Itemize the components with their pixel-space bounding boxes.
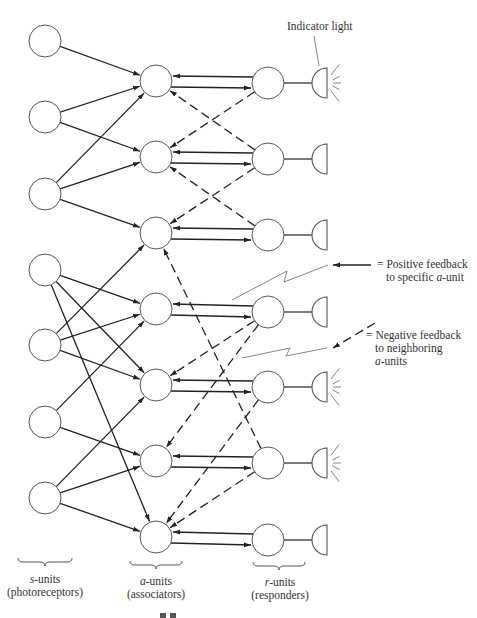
negative-eq: = [366,329,373,341]
signal-a2-to-r2 [171,163,251,164]
s-units-label: s-units (photoreceptors) [0,573,90,599]
a-unit-4 [140,293,172,325]
connection-s3-a1 [56,93,144,182]
signal-a6-to-r6 [171,467,251,468]
indicator-lights [312,64,341,555]
a-unit-1 [140,65,172,97]
feedback-r3-to-a3 [173,228,253,229]
r-unit-4 [252,296,284,328]
units [29,25,284,556]
s-unit-1 [29,25,61,57]
light-ray [331,471,339,482]
neg-feedback-r4-a5 [170,321,254,376]
positive-feedback-pointer-line [232,265,328,300]
positive-feedback-label: = Positive feedback to specific a-unit [377,258,468,284]
r-units-sublabel: (responders) [251,589,308,601]
light-ray [332,86,339,90]
r-unit-6 [252,447,284,479]
r-units-brace [253,562,305,570]
positive-line2-post: -unit [442,271,464,283]
r-unit-5 [252,371,284,403]
connection-s2-a2 [60,122,140,151]
signal-a3-to-r3 [171,239,251,240]
signal-a7-to-r7 [171,543,251,545]
feedback-r5-to-a5 [173,380,253,381]
feedback-r7-to-a7 [173,532,253,534]
positive-feedback-connections [171,76,253,545]
indicator-light-1 [312,68,327,98]
feedback-r1-to-a1 [173,76,253,77]
s-units-sublabel: (photoreceptors) [7,586,83,598]
connection-s2-a1 [60,86,140,112]
caption-fragment [160,613,176,618]
negative-feedback-pointer-line [242,348,327,358]
indicator-light-2 [312,144,327,174]
a-units-suffix: -units [146,575,172,587]
light-ray [331,91,339,102]
negative-feedback-label: = Negative feedback to neighboring a-uni… [366,329,461,368]
light-ray [332,466,339,470]
connection-s5-a3 [56,245,144,334]
braces [18,558,305,570]
neg-feedback-r6-a7 [170,472,254,528]
positive-line1: Positive feedback [386,258,467,270]
signal-a5-to-r5 [171,391,251,392]
indicator-light-6 [312,448,327,478]
connection-s4-a7 [51,285,149,522]
s-unit-3 [29,178,61,210]
s-units-suffix: -units [34,573,60,585]
indicator-light-label: Indicator light [287,20,352,33]
connection-s3-a3 [60,199,140,227]
negative-line3-post: -units [381,355,407,367]
light-ray [331,444,339,455]
feedback-r4-to-a4 [173,304,253,306]
s-unit-2 [29,101,61,133]
r-unit-1 [252,67,284,99]
connection-s7-a7 [60,503,140,531]
light-rays-5 [331,368,341,405]
s-unit-6 [29,406,61,438]
negative-line2: to neighboring [375,342,442,354]
r-unit-2 [252,143,284,175]
s-unit-4 [29,254,61,286]
a-units-sublabel: (associators) [127,588,185,600]
a-unit-7 [140,521,172,553]
indicator-light-5 [312,372,327,402]
connection-s5-a5 [60,350,140,379]
neg-feedback-r5-a7 [166,400,258,524]
indicator-leader-line [314,36,319,66]
s-unit-5 [29,329,61,361]
r-units-label: r-units (responders) [240,576,320,602]
light-ray [331,64,339,75]
light-rays-6 [331,444,341,481]
indicator-light-3 [312,220,327,250]
a-unit-3 [140,217,172,249]
s-to-a-connections [51,46,149,531]
indicator-light-7 [312,525,327,555]
connection-s6-a4 [56,321,144,410]
r-unit-7 [252,524,284,556]
positive-eq: = [377,258,384,270]
neg-feedback-r4-a6 [166,325,258,448]
negative-line1: Negative feedback [375,329,461,341]
a-unit-2 [140,141,172,173]
connection-s1-a1 [60,46,140,75]
light-ray [332,76,339,80]
light-rays-1 [331,64,341,101]
light-ray [331,395,339,406]
r-unit-3 [252,219,284,251]
a-unit-5 [140,369,172,401]
r-to-light-connections [284,83,312,540]
feedback-r6-to-a6 [173,456,253,457]
a-units-label: a-units (associators) [116,575,196,601]
a-unit-6 [140,445,172,477]
perceptron-diagram [0,0,477,618]
light-ray [332,380,339,384]
connection-s7-a5 [56,397,144,486]
s-units-brace [18,558,72,566]
light-ray [331,368,339,379]
feedback-r2-to-a2 [173,152,253,153]
signal-a1-to-r1 [171,87,251,88]
s-unit-7 [29,482,61,514]
r-units-suffix: -units [269,576,295,588]
